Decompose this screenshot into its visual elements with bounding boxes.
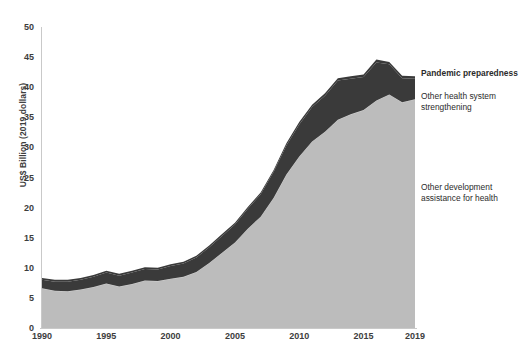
legend-label-other-health-system-strengthening: Other health system strengthening: [421, 91, 529, 112]
x-axis-tick-labels: 1990199520002005201020152019: [0, 331, 529, 351]
area-chart: US$ Billion (2019 dollars) 0510152025303…: [0, 0, 529, 354]
y-axis-tick-25: 25: [24, 173, 34, 183]
y-axis-tick-10: 10: [24, 263, 34, 273]
y-axis-tick-45: 45: [24, 52, 34, 62]
y-axis-tick-5: 5: [29, 293, 34, 303]
legend-label-other-development-assistance: Other development assistance for health: [421, 182, 529, 203]
x-axis-tick-2000: 2000: [161, 331, 181, 341]
x-axis-tick-1990: 1990: [32, 331, 52, 341]
x-axis-tick-2010: 2010: [289, 331, 309, 341]
x-axis-tick-2005: 2005: [225, 331, 245, 341]
x-axis-tick-2019: 2019: [405, 331, 425, 341]
y-axis-tick-20: 20: [24, 203, 34, 213]
y-axis-tick-labels: 05101520253035404550: [0, 0, 40, 354]
y-axis-tick-50: 50: [24, 22, 34, 32]
legend-label-pandemic-preparedness: Pandemic preparedness: [421, 68, 529, 79]
area-series-0: [42, 94, 415, 328]
x-axis-tick-1995: 1995: [96, 331, 116, 341]
y-axis-tick-40: 40: [24, 82, 34, 92]
y-axis-tick-15: 15: [24, 233, 34, 243]
x-axis-tick-2015: 2015: [354, 331, 374, 341]
stacked-area-paths: [42, 27, 415, 328]
y-axis-tick-30: 30: [24, 142, 34, 152]
x-axis-line: [40, 328, 417, 329]
plot-area: [42, 27, 415, 328]
y-axis-tick-35: 35: [24, 112, 34, 122]
